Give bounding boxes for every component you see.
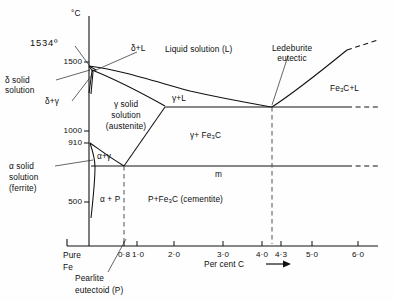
y-tick-label-910: 910 <box>44 138 82 148</box>
alpha-solid-solution-label-line2: solution <box>9 172 38 182</box>
gamma-plus-liquid-label: γ+L <box>172 93 186 103</box>
leader-delta-solid <box>56 70 90 80</box>
gamma-solid-solution-label-line3: (austenite) <box>90 121 162 131</box>
x-origin-label-line2: Fe <box>63 262 73 272</box>
gamma-solid-solution-label-line1: γ solid <box>90 99 162 109</box>
gamma-solid-solution-label-line2: solution <box>90 110 162 120</box>
alpha-plus-pearlite-label: α + P <box>100 194 120 204</box>
fe3c-plus-liquid-label: Fe3C+L <box>330 83 359 96</box>
pearlite-eutectoid-label-line2: eutectoid (P) <box>75 285 123 295</box>
ledeburite-eutectic-label-line1: Ledeburite <box>252 43 332 53</box>
alpha-plus-gamma-label: α+γ <box>97 151 111 161</box>
x-axis-arrow-group <box>266 260 291 267</box>
x-tick-label-1-0: 1·0 <box>124 250 152 260</box>
alpha-solid-solution-label-line3: (ferrite) <box>9 183 37 193</box>
delta-plus-liquid-label: δ+L <box>131 43 145 53</box>
x-axis-title: Per cent C <box>204 259 244 269</box>
y-tick-label-1500: 1500 <box>44 57 82 67</box>
x-axis-arrow-head <box>283 260 291 267</box>
x-tick-label-2-0: 2·0 <box>160 250 188 260</box>
liquidus-extrapolation-dashed <box>347 40 378 50</box>
delta-plus-gamma-label: δ+γ <box>45 96 59 106</box>
melting-point-label: 1534º <box>30 38 58 48</box>
x-tick-label-6-0: 6·0 <box>344 250 372 260</box>
x-tick-marks <box>124 241 358 246</box>
x-tick-label-4-3: 4·3 <box>267 250 295 260</box>
x-tick-label-5-0: 5·0 <box>298 250 326 260</box>
alpha-solvus-curve <box>90 143 95 218</box>
alpha-solid-solution-label-line1: α solid <box>9 161 34 171</box>
y-tick-label-1000: 1000 <box>44 126 82 136</box>
gamma-plus-fe3c-label: γ+ Fe3C <box>190 130 221 143</box>
delta-solid-solution-label-line2: solution <box>5 85 34 95</box>
leader-lines <box>55 46 288 272</box>
phase-diagram-figure: °C 1500 1000 910 500 1534º δ+L Liquid so… <box>0 0 395 301</box>
y-axis-unit-label: °C <box>71 8 81 18</box>
leader-delta-plus-l <box>96 52 137 70</box>
m-line-label: m <box>215 169 222 179</box>
y-tick-marks <box>84 62 89 202</box>
liquid-solution-label: Liquid solution (L) <box>165 44 232 54</box>
x-origin-label-line1: Pure <box>63 250 81 260</box>
delta-solid-solution-label-line1: δ solid <box>5 75 30 85</box>
ledeburite-eutectic-label-line2: eutectic <box>252 53 332 63</box>
leader-alpha-solid <box>55 160 93 166</box>
pearlite-plus-cementite-label: P+Fe3C (cementite) <box>148 194 223 207</box>
y-tick-label-500: 500 <box>44 197 82 207</box>
pearlite-eutectoid-label-line1: Pearlite <box>75 273 104 283</box>
